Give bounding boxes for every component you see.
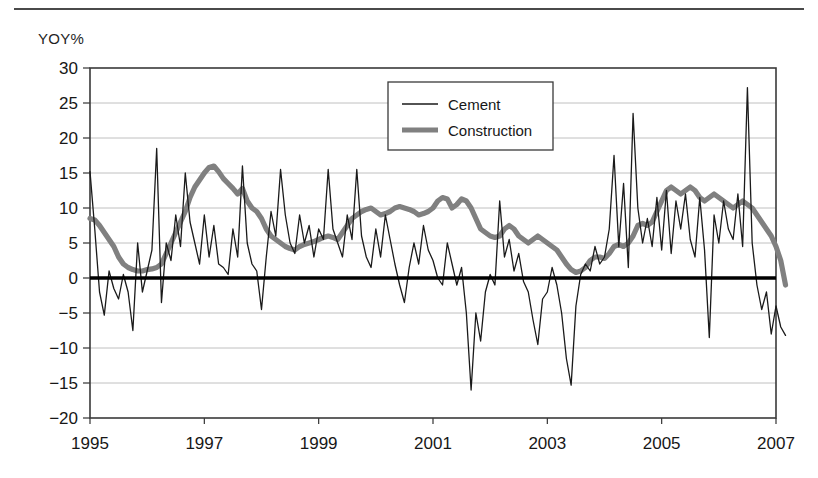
legend-label-construction: Construction bbox=[448, 122, 532, 139]
y-tick-label: 10 bbox=[59, 199, 78, 218]
x-tick-label: 1995 bbox=[71, 434, 109, 453]
y-axis-tick-labels: −20−15−10−5051015202530 bbox=[49, 59, 78, 428]
x-tick-label: 2007 bbox=[757, 434, 795, 453]
x-tick-label: 1999 bbox=[300, 434, 338, 453]
y-tick-label: −15 bbox=[49, 374, 78, 393]
y-tick-label: 15 bbox=[59, 164, 78, 183]
y-tick-label: −10 bbox=[49, 339, 78, 358]
y-tick-label: 25 bbox=[59, 94, 78, 113]
y-tick-label: −20 bbox=[49, 409, 78, 428]
chart-figure: YOY% −20−15−10−5051015202530 19951997199… bbox=[0, 0, 818, 478]
chart-legend: CementConstruction bbox=[388, 82, 553, 150]
x-tick-label: 2003 bbox=[528, 434, 566, 453]
y-axis-ticks bbox=[83, 68, 90, 418]
x-axis-ticks bbox=[90, 418, 776, 424]
y-tick-label: 20 bbox=[59, 129, 78, 148]
line-chart-svg: −20−15−10−5051015202530 1995199719992001… bbox=[0, 0, 818, 478]
x-tick-label: 2005 bbox=[643, 434, 681, 453]
y-tick-label: 30 bbox=[59, 59, 78, 78]
x-tick-label: 2001 bbox=[414, 434, 452, 453]
x-tick-label: 1997 bbox=[185, 434, 223, 453]
y-tick-label: −5 bbox=[59, 304, 78, 323]
y-tick-label: 5 bbox=[69, 234, 78, 253]
x-axis-tick-labels: 1995199719992001200320052007 bbox=[71, 434, 795, 453]
legend-label-cement: Cement bbox=[448, 96, 501, 113]
y-tick-label: 0 bbox=[69, 269, 78, 288]
